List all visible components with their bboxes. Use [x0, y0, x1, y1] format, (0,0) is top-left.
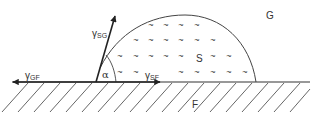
svg-text:~: ~: [148, 51, 153, 61]
svg-text:~: ~: [133, 51, 138, 61]
svg-text:~: ~: [194, 35, 199, 45]
svg-text:~: ~: [163, 51, 168, 61]
svg-text:~: ~: [163, 20, 168, 30]
svg-text:~: ~: [148, 35, 153, 45]
gamma-sg-label: γSG: [92, 28, 107, 39]
svg-text:~: ~: [178, 67, 183, 77]
svg-text:~: ~: [178, 20, 183, 30]
wetting-diagram: ~~~~ ~~~~~~ ~~~~~~~ ~~~~~~~ γSG γGF γSF …: [0, 0, 312, 122]
region-liquid-label: S: [196, 53, 203, 64]
svg-text:~: ~: [242, 67, 247, 77]
svg-text:~: ~: [178, 51, 183, 61]
solid-hatching: [2, 83, 310, 112]
svg-text:~: ~: [210, 67, 215, 77]
svg-text:~: ~: [210, 51, 215, 61]
svg-text:~: ~: [194, 67, 199, 77]
svg-text:~: ~: [133, 67, 138, 77]
svg-text:~: ~: [148, 20, 153, 30]
svg-text:~: ~: [226, 67, 231, 77]
gamma-gf-label: γGF: [25, 70, 40, 81]
gamma-sf-label: γSF: [145, 70, 159, 81]
region-gas-label: G: [266, 10, 274, 21]
angle-alpha-label: α: [102, 69, 109, 80]
svg-text:~: ~: [133, 35, 138, 45]
svg-text:~: ~: [163, 35, 168, 45]
svg-text:~: ~: [210, 35, 215, 45]
liquid-fill-marks: ~~~~ ~~~~~~ ~~~~~~~ ~~~~~~~: [117, 20, 247, 77]
svg-text:~: ~: [226, 51, 231, 61]
svg-text:~: ~: [117, 51, 122, 61]
region-solid-label: F: [192, 99, 198, 110]
svg-text:~: ~: [194, 20, 199, 30]
svg-text:~: ~: [178, 35, 183, 45]
svg-text:~: ~: [117, 67, 122, 77]
